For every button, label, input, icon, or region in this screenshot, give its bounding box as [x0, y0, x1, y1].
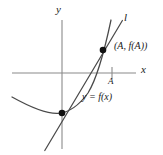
tick-label-a: A [108, 77, 114, 86]
x-axis-label: x [141, 64, 146, 75]
point-marker-upper [100, 47, 107, 54]
curve-label-y-equals-f-x: y = f(x) [82, 92, 112, 102]
point-label-a-f-a: (A, f(A)) [114, 41, 147, 51]
plot-canvas [0, 0, 163, 155]
line-label-l: l [124, 12, 127, 23]
point-marker-lower [59, 110, 66, 117]
y-axis-label: y [56, 4, 61, 15]
figure-container: y x l A (A, f(A)) y = f(x) [0, 0, 163, 155]
